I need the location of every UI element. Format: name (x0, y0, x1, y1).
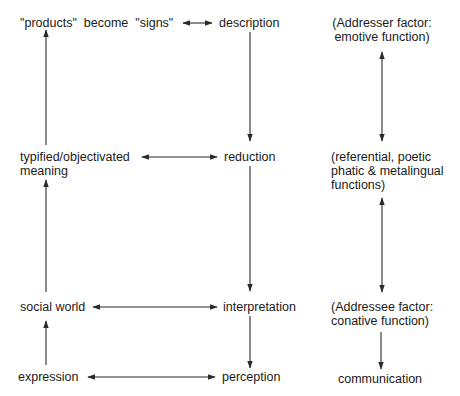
referential-line-1: (referential, poetic (331, 150, 444, 164)
node-addressee-factor: (Addressee factor: conative function) (331, 300, 433, 328)
social-world-text: social world (20, 300, 85, 314)
products-text: "products" (20, 16, 77, 30)
signs-text: "signs" (135, 16, 173, 30)
semiotic-flow-diagram: "products" become "signs" typified/objec… (0, 0, 460, 396)
node-reduction: reduction (224, 150, 275, 164)
node-description: description (219, 16, 279, 30)
node-interpretation: interpretation (223, 300, 296, 314)
node-expression: expression (18, 370, 78, 384)
node-referential-functions: (referential, poetic phatic & metalingua… (331, 150, 444, 192)
expression-text: expression (18, 370, 78, 384)
referential-line-3: functions) (331, 178, 444, 192)
addresser-line-1: (Addresser factor: (326, 16, 438, 30)
diagram-connectors (0, 0, 460, 396)
addresser-line-2: emotive function) (326, 30, 438, 44)
reduction-text: reduction (224, 150, 275, 164)
description-text: description (219, 16, 279, 30)
node-social-world: social world (20, 300, 85, 314)
node-typified-meaning: typified/objectivated meaning (20, 150, 130, 178)
node-products-become-signs: "products" become "signs" (20, 16, 173, 30)
referential-line-2: phatic & metalingual (331, 164, 444, 178)
communication-text: communication (338, 372, 422, 386)
perception-text: perception (222, 370, 280, 384)
interpretation-text: interpretation (223, 300, 296, 314)
addressee-line-2: conative function) (331, 314, 433, 328)
become-text: become (84, 16, 128, 30)
node-communication: communication (338, 372, 422, 386)
addressee-line-1: (Addressee factor: (331, 300, 433, 314)
typified-line-2: meaning (20, 164, 130, 178)
node-addresser-factor: (Addresser factor: emotive function) (326, 16, 438, 44)
typified-line-1: typified/objectivated (20, 150, 130, 164)
node-perception: perception (222, 370, 280, 384)
